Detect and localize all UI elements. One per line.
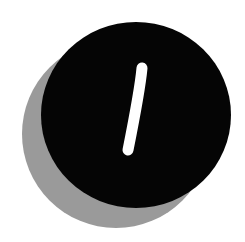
slash-icon bbox=[0, 0, 245, 242]
